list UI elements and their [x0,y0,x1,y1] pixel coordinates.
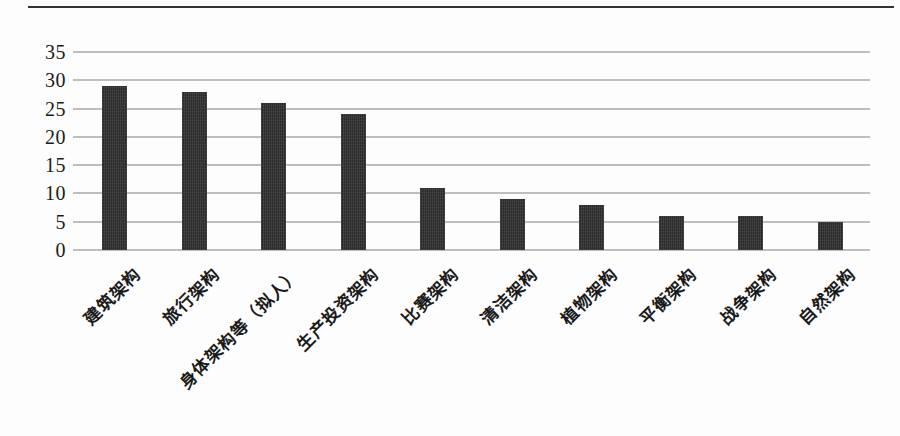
y-axis-tick-label: 20 [20,126,66,148]
gridline [73,51,870,53]
bar [738,216,763,250]
y-axis-tick-label: 15 [20,154,66,176]
x-axis-category-label: 建筑架构 [77,261,146,330]
bar [659,216,684,250]
x-axis-category-label: 生产投资架构 [290,261,384,355]
y-axis-tick-label: 0 [20,239,66,261]
gridline [73,79,870,81]
x-axis-category-label: 平衡架构 [633,261,702,330]
bar [261,103,286,250]
bar [420,188,445,250]
bar [579,205,604,250]
y-axis-tick-label: 35 [20,41,66,63]
x-axis-category-label: 清洁架构 [474,261,543,330]
y-axis-tick-label: 10 [20,182,66,204]
x-axis-category-label: 旅行架构 [156,261,225,330]
x-axis-category-label: 比赛架构 [395,261,464,330]
bar [182,92,207,250]
bar-chart-figure: 05101520253035 建筑架构旅行架构身体架构等（拟人）生产投资架构比赛… [0,0,900,436]
x-axis-category-label: 战争架构 [713,261,782,330]
y-axis-tick-label: 25 [20,98,66,120]
x-axis-category-label: 自然架构 [792,261,861,330]
y-axis-tick-label: 5 [20,211,66,233]
bar [341,114,366,250]
bar [818,222,843,250]
bar [102,86,127,250]
x-axis-category-label: 植物架构 [554,261,623,330]
chart-area: 05101520253035 建筑架构旅行架构身体架构等（拟人）生产投资架构比赛… [0,0,900,436]
y-axis-tick-label: 30 [20,69,66,91]
bar [500,199,525,250]
